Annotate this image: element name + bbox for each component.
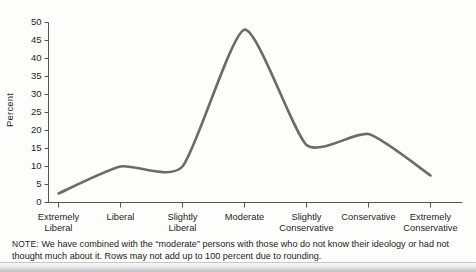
footnote-tag: NOTE: <box>12 239 39 249</box>
ideology-distribution-line <box>59 30 431 194</box>
chart-axes <box>45 23 463 208</box>
ideology-distribution-chart: Percent 05101520253035404550 Extremely L… <box>0 0 476 238</box>
chart-footnote: NOTE: We have combined with the “moderat… <box>12 239 467 262</box>
y-axis-ticks <box>45 23 49 203</box>
x-axis-ticks <box>59 203 431 208</box>
page-edge-shadow <box>0 261 476 272</box>
footnote-line-1: We have combined with the “moderate” per… <box>41 239 449 249</box>
scanned-page: Percent 05101520253035404550 Extremely L… <box>0 0 476 272</box>
chart-plot-svg <box>0 0 476 238</box>
footnote-line-2: thought much about it. Rows may not add … <box>12 251 321 261</box>
